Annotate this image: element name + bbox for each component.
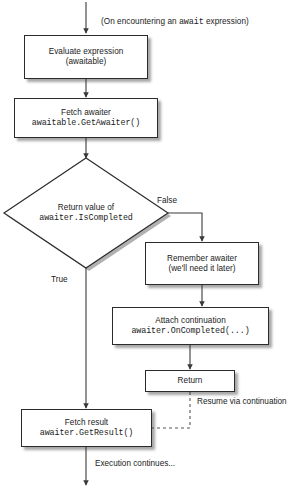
edge-return-resume-dashed xyxy=(152,392,190,428)
flowchart-diagram: (On encountering an await expression) Ev… xyxy=(0,0,289,496)
node-return: Return xyxy=(145,370,235,392)
edge-label-execution-continues: Execution continues... xyxy=(95,459,175,469)
node-remember-line2: (we'll need it later) xyxy=(168,264,235,274)
edge-label-resume-line2: continuation xyxy=(243,397,287,406)
node-fetch-result: Fetch result awaiter.GetResult() xyxy=(21,409,152,447)
entry-annotation-suffix: expression) xyxy=(204,17,249,26)
node-attach-continuation: Attach continuation awaiter.OnCompleted(… xyxy=(112,307,269,345)
entry-annotation-prefix: (On encountering an xyxy=(101,17,179,26)
edge-label-false: False xyxy=(157,196,177,206)
decision-diamond xyxy=(4,158,168,268)
node-fetch-awaiter-line2: awaitable.GetAwaiter() xyxy=(32,118,140,128)
node-fetch-result-line2: awaiter.GetResult() xyxy=(40,428,134,438)
edge-label-resume-line1: Resume via xyxy=(197,397,240,406)
node-remember-line1: Remember awaiter xyxy=(167,254,237,264)
entry-annotation: (On encountering an await expression) xyxy=(101,17,249,28)
node-fetch-awaiter: Fetch awaiter awaitable.GetAwaiter() xyxy=(14,98,158,138)
node-fetch-awaiter-line1: Fetch awaiter xyxy=(61,108,111,118)
node-evaluate-line2: (awaitable) xyxy=(66,57,107,67)
entry-annotation-keyword: await xyxy=(179,17,204,27)
node-evaluate-expression: Evaluate expression (awaitable) xyxy=(24,35,148,79)
edge-decision-false-to-remember xyxy=(168,213,202,241)
node-fetch-result-line1: Fetch result xyxy=(65,418,108,428)
edge-label-true: True xyxy=(51,275,68,285)
node-attach-line2: awaiter.OnCompleted(...) xyxy=(131,326,249,336)
node-attach-line1: Attach continuation xyxy=(155,316,226,326)
node-evaluate-line1: Evaluate expression xyxy=(49,47,124,57)
node-return-line1: Return xyxy=(178,376,203,386)
node-remember-awaiter: Remember awaiter (we'll need it later) xyxy=(145,242,259,285)
edge-label-resume-via-continuation: Resume via continuation xyxy=(197,397,287,407)
